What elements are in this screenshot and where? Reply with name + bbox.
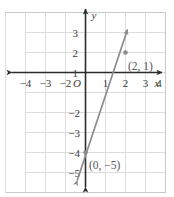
x-tick-label: 4 [156,77,162,89]
point-label-0-neg5: (0, −5) [89,159,121,172]
x-tick-label: 3 [143,77,149,89]
y-tick-labels: 3 2 1 −2 −3 −4 −5 [68,27,80,179]
x-tick-label: −2 [60,77,72,89]
x-tick-label: 2 [123,77,129,89]
origin-label: O [73,77,81,89]
x-tick-label: −3 [40,77,52,89]
y-tick-label: −2 [68,107,80,119]
axes [12,9,162,187]
y-tick-label: 1 [73,67,79,79]
y-tick-label: −4 [68,147,80,159]
y-tick-label: −3 [68,127,80,139]
y-tick-label: 2 [73,47,79,59]
x-tick-labels: −4 −3 −2 1 2 3 4 [20,77,163,89]
coordinate-plane-svg: x y O −4 −3 −2 1 2 3 4 3 2 1 −2 −3 −4 −5 [0,0,174,197]
x-tick-label: −4 [20,77,32,89]
coordinate-graph-figure: x y O −4 −3 −2 1 2 3 4 3 2 1 −2 −3 −4 −5 [0,0,174,197]
y-axis-label: y [91,9,97,21]
point-label-2-1: (2, 1) [128,60,153,73]
data-point-2-1 [123,50,128,55]
y-tick-label: 3 [73,27,79,39]
data-point-0-neg5 [83,150,88,155]
